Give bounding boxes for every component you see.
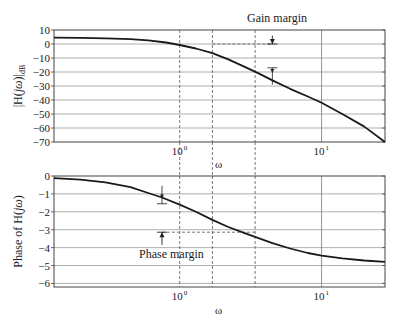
y-tick-label: −50	[33, 108, 51, 120]
x-tick-label: 10	[314, 145, 326, 157]
y-axis-label-phase: Phase of H(jω)	[11, 195, 25, 267]
x-tick-label: 10	[314, 290, 326, 302]
y-tick-label: −60	[33, 122, 51, 134]
phase-curve	[54, 178, 385, 262]
arrow-down-icon	[270, 39, 275, 44]
y-tick-label: −20	[33, 66, 51, 78]
y-tick-label: −3	[38, 224, 50, 236]
y-tick-label: −10	[33, 52, 51, 64]
y-tick-label: −6	[38, 277, 50, 289]
x-tick-exponent: 1	[326, 289, 330, 297]
phase-plot: 0−1−2−3−4−5−6100101Phase of H(jω)	[11, 170, 385, 302]
y-tick-label: −40	[33, 94, 51, 106]
x-tick-label: 10	[172, 290, 184, 302]
y-tick-label: −5	[38, 260, 50, 272]
phase-margin-label: Phase margin	[139, 247, 204, 261]
y-axis-label-magnitude: |H(jω)|dB	[11, 65, 27, 108]
y-tick-label: −4	[38, 242, 50, 254]
x-axis-label-bottom: ω	[215, 304, 222, 316]
y-tick-label: −70	[33, 136, 51, 148]
plot-frame	[54, 176, 385, 287]
y-tick-label: −2	[38, 206, 50, 218]
x-tick-exponent: 0	[184, 144, 188, 152]
y-tick-label: 0	[45, 170, 51, 182]
arrow-up-icon	[159, 232, 164, 237]
x-tick-label: 10	[172, 145, 184, 157]
x-tick-exponent: 0	[184, 289, 188, 297]
y-tick-label: 0	[45, 38, 51, 50]
bode-plot-figure: 100−10−20−30−40−50−60−70100101|H(jω)|dB …	[0, 0, 399, 325]
x-axis-label-top: ω	[215, 158, 222, 170]
x-tick-exponent: 1	[326, 144, 330, 152]
y-tick-label: 10	[39, 24, 51, 36]
y-tick-label: −30	[33, 80, 51, 92]
magnitude-plot: 100−10−20−30−40−50−60−70100101|H(jω)|dB	[11, 24, 385, 157]
gain-margin-label: Gain margin	[247, 11, 307, 25]
y-tick-label: −1	[38, 188, 50, 200]
magnitude-curve	[54, 38, 385, 142]
